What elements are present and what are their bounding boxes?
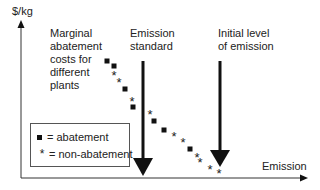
curve-label-line: costs for <box>50 53 102 66</box>
legend-item-non-abatement: *= non-abatement <box>37 148 132 161</box>
square-marker-icon <box>37 135 42 140</box>
y-axis-label: $/kg <box>12 5 33 18</box>
non-abatement-point: * <box>216 166 221 181</box>
legend-label: = abatement <box>47 131 108 143</box>
star-marker-icon: * <box>37 148 47 161</box>
non-abatement-point: * <box>129 94 134 109</box>
initial-level-label-line: of emission <box>218 40 274 53</box>
non-abatement-point: * <box>197 155 202 170</box>
non-abatement-point: * <box>180 135 185 150</box>
legend: = abatement *= non-abatement <box>30 123 130 167</box>
abatement-point <box>123 87 128 92</box>
curve-label-line: plants <box>50 79 102 92</box>
emission-standard-label-line: standard <box>130 40 175 53</box>
initial-level-label-line: Initial level <box>218 27 274 40</box>
non-abatement-point: * <box>116 75 121 90</box>
abatement-point <box>162 128 167 133</box>
curve-label: Marginal abatement costs for different p… <box>50 27 102 92</box>
curve-label-line: Marginal <box>50 27 102 40</box>
abatement-point <box>105 59 110 64</box>
emission-standard-label-line: Emission <box>130 27 175 40</box>
emission-standard-label: Emission standard <box>130 27 175 53</box>
emission-standard-arrowhead-icon <box>133 158 153 176</box>
y-axis-arrow-icon <box>18 20 25 28</box>
x-axis-label: Emission <box>262 160 307 173</box>
legend-item-abatement: = abatement <box>37 131 108 144</box>
initial-level-arrowhead-icon <box>210 150 230 167</box>
x-axis-arrow-icon <box>300 175 308 182</box>
non-abatement-point: * <box>147 107 152 122</box>
non-abatement-point: * <box>207 162 212 177</box>
abatement-point <box>188 147 193 152</box>
initial-level-label: Initial level of emission <box>218 27 274 53</box>
curve-label-line: abatement <box>50 40 102 53</box>
curve-label-line: different <box>50 66 102 79</box>
non-abatement-point: * <box>171 129 176 144</box>
legend-label: = non-abatement <box>49 148 132 160</box>
